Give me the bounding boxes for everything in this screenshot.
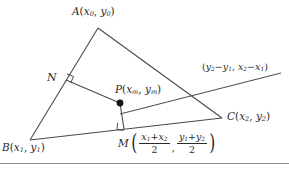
comma: ,	[24, 141, 27, 153]
midpoint-label-m: M( x1+x2 2 , y1+y2 2 )	[118, 132, 217, 154]
point-m-name: M	[118, 138, 129, 149]
vertex-b-name: B	[2, 141, 10, 153]
minus-sign-2: −	[247, 61, 255, 72]
vertex-label-b: B(x1, y1)	[2, 142, 45, 153]
vertex-c-name: C	[227, 110, 235, 122]
paren-close: )	[41, 141, 45, 153]
perpendicular-segment-np	[66, 80, 120, 103]
side-ac	[98, 28, 222, 118]
paren-close: )	[111, 5, 115, 17]
comma: ,	[232, 61, 235, 72]
point-label-p: P(xm, ym)	[115, 84, 161, 95]
geometry-figure: A(x0, y0) B(x1, y1) C(x2, y2) N P(xm, ym…	[0, 0, 289, 171]
point-marker-p	[117, 100, 124, 107]
paren-open-large: (	[131, 134, 137, 152]
fraction-x-numerator: x1+x2	[139, 132, 169, 143]
point-label-n: N	[47, 72, 57, 83]
direction-vector-label: (y2−y1, x2−x1)	[202, 62, 268, 72]
fraction-y-midpoint: y1+y2 2	[177, 132, 207, 154]
vertex-label-c: C(x2, y2)	[227, 111, 270, 122]
comma: ,	[249, 110, 252, 122]
vertex-a-name: A	[72, 5, 80, 17]
point-n-name: N	[47, 71, 57, 84]
fraction-y-numerator: y1+y2	[177, 132, 207, 143]
paren-close-large: )	[209, 134, 215, 152]
plus-sign-2: +	[188, 131, 196, 142]
paren-close: )	[157, 83, 161, 95]
vertex-label-a: A(x0, y0)	[72, 6, 115, 17]
comma: ,	[138, 83, 141, 95]
num-y2-sub: 2	[201, 136, 205, 142]
fraction-x-midpoint: x1+x2 2	[139, 132, 169, 154]
paren-close: )	[264, 61, 268, 72]
fraction-x-denominator: 2	[139, 143, 169, 155]
perpendicular-segment-pm	[120, 103, 124, 129]
side-ab	[30, 28, 98, 140]
comma: ,	[94, 5, 97, 17]
paren-close: )	[266, 110, 270, 122]
minus-sign: −	[215, 61, 223, 72]
fraction-y-denominator: 2	[177, 143, 207, 155]
num-x2-sub: 2	[164, 136, 168, 142]
comma-separator: ,	[172, 142, 175, 155]
